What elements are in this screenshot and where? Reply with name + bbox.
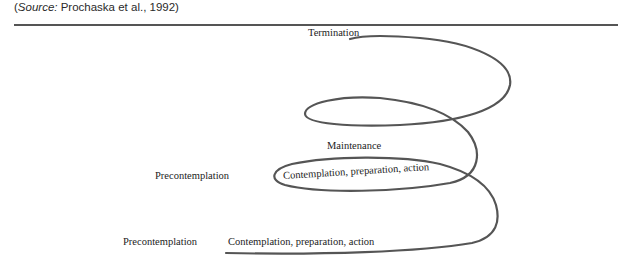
spiral-of-change-diagram [0, 0, 631, 258]
stage-label-maintenance: Maintenance [327, 140, 381, 151]
stage-label-precontemplation-upper: Precontemplation [155, 170, 229, 181]
stage-label-termination: Termination [308, 27, 359, 38]
stage-label-contemplation-lower: Contemplation, preparation, action [228, 236, 374, 247]
stage-label-precontemplation-lower: Precontemplation [123, 236, 197, 247]
